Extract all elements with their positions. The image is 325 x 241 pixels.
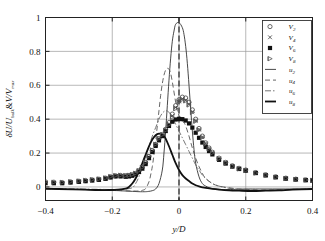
svg-text:δU/Ubulk&V/Vmax: δU/Ubulk&V/Vmax xyxy=(4,80,15,138)
y-axis-label: δU/Ubulk&V/Vmax xyxy=(4,80,15,138)
y-tick-label: 0.8 xyxy=(29,47,41,57)
data-point xyxy=(268,46,272,50)
y-tick-label: 0.2 xyxy=(29,148,40,158)
y-tick-label: 1 xyxy=(36,13,41,23)
x-axis-label: y/D xyxy=(172,224,186,234)
y-tick-label: 0.4 xyxy=(29,114,41,124)
x-tick-label: −0.4 xyxy=(37,206,54,216)
figure-chart: −0.4−0.200.20.4 00.20.40.60.81 y/D δU/Ub… xyxy=(0,0,325,241)
legend-frame xyxy=(263,21,312,114)
data-point xyxy=(190,126,194,130)
y-tick-label: 0.6 xyxy=(29,80,41,90)
y-tick-label: 0 xyxy=(36,182,41,192)
legend[interactable]: V2V4V6V8u2u4u6u8 xyxy=(263,21,312,114)
data-point xyxy=(187,121,191,125)
x-tick-label: 0.4 xyxy=(307,206,319,216)
chart-svg: −0.4−0.200.20.4 00.20.40.60.81 y/D δU/Ub… xyxy=(0,0,325,241)
y-tick-labels: 00.20.40.60.81 xyxy=(29,13,41,192)
x-tick-labels: −0.4−0.200.20.4 xyxy=(37,206,318,216)
x-tick-label: 0 xyxy=(177,206,182,216)
x-tick-label: −0.2 xyxy=(104,206,120,216)
x-tick-label: 0.2 xyxy=(240,206,251,216)
